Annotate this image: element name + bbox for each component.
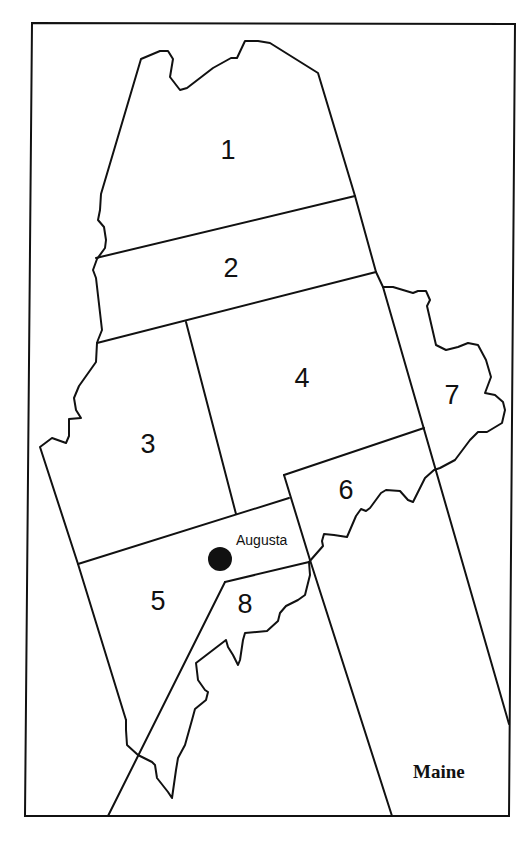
capital-label: Augusta bbox=[236, 532, 288, 548]
state-outline-west-north bbox=[40, 41, 383, 720]
boundary-1-2 bbox=[96, 196, 355, 258]
boundary-east-7 bbox=[383, 287, 509, 724]
boundary-35-line bbox=[78, 498, 289, 564]
region-label-5: 5 bbox=[150, 586, 165, 616]
state-outline-east-coast bbox=[126, 287, 505, 798]
boundary-8-top bbox=[225, 562, 309, 582]
boundary-6-west bbox=[284, 475, 392, 816]
capital-marker-icon bbox=[208, 547, 232, 571]
region-label-2: 2 bbox=[223, 253, 238, 283]
region-label-1: 1 bbox=[220, 135, 235, 165]
maine-region-map: Augusta 1 2 3 4 5 6 7 8 Maine bbox=[0, 0, 521, 861]
map-title: Maine bbox=[413, 761, 465, 782]
region-label-4: 4 bbox=[294, 363, 309, 393]
map-frame bbox=[25, 23, 515, 816]
region-label-8: 8 bbox=[237, 589, 252, 619]
boundary-5-8 bbox=[108, 582, 225, 816]
region-label-3: 3 bbox=[140, 429, 155, 459]
region-label-6: 6 bbox=[338, 475, 353, 505]
boundary-3-4 bbox=[186, 322, 236, 514]
boundary-6-top bbox=[284, 428, 424, 475]
region-label-7: 7 bbox=[444, 380, 459, 410]
